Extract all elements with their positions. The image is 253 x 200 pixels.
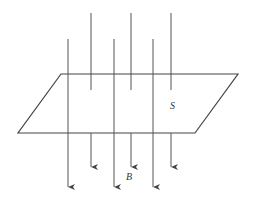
field-label: B <box>126 171 132 182</box>
field-lines-back <box>91 13 171 90</box>
magnetic-flux-diagram: S B <box>0 0 253 200</box>
surface-label: S <box>170 100 175 111</box>
field-lines-front <box>68 39 153 187</box>
field-lines-back-below <box>91 133 171 167</box>
surface-plane <box>18 74 238 133</box>
